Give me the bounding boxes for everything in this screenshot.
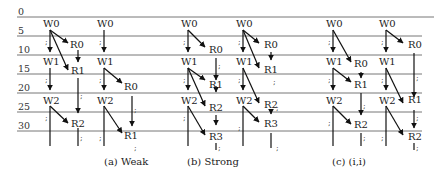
semicolon-mark: ; <box>99 133 102 142</box>
label-r2: R2 <box>354 119 368 130</box>
tick-25: 25 <box>18 101 30 112</box>
semicolon-mark: ; <box>381 37 384 46</box>
consistency-timeline-diagram: 0 5 10 15 20 25 30 <box>0 0 434 175</box>
semicolon-mark: ; <box>416 113 419 122</box>
semicolon-mark: ; <box>45 113 48 122</box>
label-w1: W1 <box>379 56 396 67</box>
semicolon-mark: ; <box>276 103 279 112</box>
label-r2: R2 <box>71 118 85 129</box>
semicolon-mark: ; <box>183 113 186 122</box>
label-w0: W0 <box>43 18 60 29</box>
tick-30: 30 <box>18 120 30 131</box>
tick-0: 0 <box>18 6 24 17</box>
label-w2: W2 <box>43 95 60 106</box>
semicolon-mark: ; <box>134 105 137 114</box>
label-r1: R1 <box>71 65 85 76</box>
tick-15: 15 <box>18 63 30 74</box>
label-w1: W1 <box>236 56 253 67</box>
label-w2: W2 <box>379 95 396 106</box>
label-r0: R0 <box>124 81 138 92</box>
caption-weak: (a) Weak <box>104 156 149 167</box>
label-r0: R0 <box>264 39 278 50</box>
semicolon-mark: ; <box>363 101 366 110</box>
semicolon-mark: ; <box>183 75 186 84</box>
label-r1: R1 <box>124 130 138 141</box>
label-r0: R0 <box>354 58 368 69</box>
semicolon-mark: ; <box>218 61 221 70</box>
label-w0: W0 <box>181 18 198 29</box>
tick-10: 10 <box>18 44 30 55</box>
semicolon-mark: ; <box>80 133 83 142</box>
semicolon-mark: ; <box>80 91 83 100</box>
semicolon-mark: ; <box>328 75 331 84</box>
semicolon-mark: ; <box>238 123 241 132</box>
label-w1: W1 <box>181 56 198 67</box>
label-w2: W2 <box>181 95 198 106</box>
tick-20: 20 <box>18 82 30 93</box>
label-w0: W0 <box>326 18 343 29</box>
label-r3: R3 <box>209 131 223 142</box>
caption-ii: (c) (i,i) <box>332 156 366 167</box>
semicolon-mark: ; <box>99 37 102 46</box>
label-w1: W1 <box>97 56 114 67</box>
label-r1: R1 <box>209 79 223 90</box>
semicolon-mark: ; <box>183 37 186 46</box>
caption-strong: (b) Strong <box>187 156 239 167</box>
semicolon-mark: ; <box>99 75 102 84</box>
semicolon-mark: ; <box>276 143 279 152</box>
label-r2: R2 <box>209 102 223 113</box>
semicolon-mark: ; <box>273 77 276 86</box>
semicolon-mark: ; <box>238 37 241 46</box>
semicolon-mark: ; <box>238 75 241 84</box>
label-r1: R1 <box>354 79 368 90</box>
label-w2: W2 <box>97 95 114 106</box>
label-w1: W1 <box>43 56 60 67</box>
label-r3: R3 <box>264 118 278 129</box>
semicolon-mark: ; <box>328 37 331 46</box>
label-w0: W0 <box>236 18 253 29</box>
semicolon-mark: ; <box>416 143 419 152</box>
label-r1: R1 <box>408 94 422 105</box>
semicolon-mark: ; <box>381 75 384 84</box>
label-w1: W1 <box>326 56 343 67</box>
label-w2: W2 <box>326 95 343 106</box>
label-r1: R1 <box>264 64 278 75</box>
label-w0: W0 <box>97 18 114 29</box>
semicolon-mark: ; <box>218 143 221 152</box>
label-r0: R0 <box>408 39 422 50</box>
semicolon-mark: ; <box>328 118 331 127</box>
label-w2: W2 <box>236 95 253 106</box>
semicolon-mark: ; <box>45 37 48 46</box>
semicolon-mark: ; <box>45 75 48 84</box>
label-w0: W0 <box>379 18 396 29</box>
semicolon-mark: ; <box>363 133 366 142</box>
semicolon-mark: ; <box>381 133 384 142</box>
semicolon-mark: ; <box>416 73 419 82</box>
label-r0: R0 <box>70 39 84 50</box>
tick-5: 5 <box>18 25 24 36</box>
label-r0: R0 <box>209 44 223 55</box>
label-r2: R2 <box>408 131 422 142</box>
semicolon-mark: ; <box>134 143 137 152</box>
